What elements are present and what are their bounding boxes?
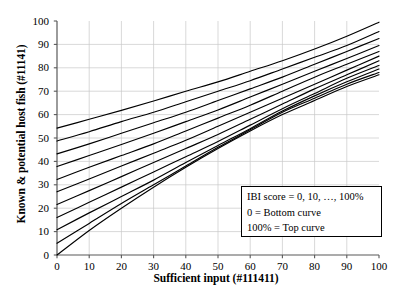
y-axis-title: Known & potential host fish (#11141) [15,29,27,239]
x-axis-title: Sufficient input (#111411) [46,272,386,284]
x-tick-label: 10 [76,261,102,272]
y-tick-label: 0 [23,250,49,261]
x-tick-label: 100 [366,261,392,272]
y-tick-label: 100 [23,16,49,27]
legend-box: IBI score = 0, 10, …, 100% 0 = Bottom cu… [241,186,382,237]
legend-line-top-curve: 100% = Top curve [247,220,381,236]
legend-line-ibi-score: IBI score = 0, 10, …, 100% [247,189,381,205]
x-tick-label: 70 [269,261,295,272]
x-tick-label: 40 [173,261,199,272]
legend-line-bottom-curve: 0 = Bottom curve [247,205,381,221]
x-tick-label: 80 [302,261,328,272]
x-tick-label: 0 [44,261,70,272]
x-tick-label: 60 [237,261,263,272]
x-tick-label: 90 [334,261,360,272]
x-tick-label: 20 [108,261,134,272]
chart-plot-area [0,0,410,293]
chart-figure: 0102030405060708090100 01020304050607080… [0,0,410,293]
x-tick-label: 50 [205,261,231,272]
x-tick-label: 30 [141,261,167,272]
